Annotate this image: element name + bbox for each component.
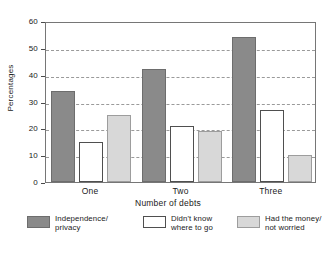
bar: [288, 155, 312, 182]
bar: [260, 110, 284, 182]
gridline: [46, 50, 315, 51]
light-gray-swatch: [237, 216, 260, 228]
bar-chart: Percentages 0102030405060 OneTwoThree Nu…: [0, 0, 336, 254]
x-axis-tick-label: Two: [146, 187, 216, 196]
chart-legend: Independence/ privacyDidn't know where t…: [0, 215, 336, 245]
x-axis-tick-label: Three: [236, 187, 306, 196]
legend-label: Didn't know where to go: [171, 215, 213, 232]
y-axis-tick-label: 30: [0, 99, 38, 107]
legend-item: Independence/ privacy: [27, 215, 108, 232]
dark-gray-swatch: [27, 216, 50, 228]
y-axis-tick: [41, 183, 45, 184]
y-axis-tick-label: 0: [0, 179, 38, 187]
y-axis-title: Percentages: [7, 48, 15, 128]
x-axis-title: Number of debts: [0, 199, 336, 208]
y-axis-tick-label: 20: [0, 125, 38, 133]
legend-item: Didn't know where to go: [143, 215, 213, 232]
bar: [170, 126, 194, 182]
bar: [232, 37, 256, 182]
gridline: [46, 77, 315, 78]
legend-label: Independence/ privacy: [55, 215, 108, 232]
bar: [198, 131, 222, 182]
gridline: [46, 104, 315, 105]
plot-area: [45, 22, 316, 183]
bar: [107, 115, 131, 182]
legend-label: Had the money/ not worried: [265, 215, 321, 232]
y-axis-tick-label: 60: [0, 18, 38, 26]
y-axis-tick-label: 10: [0, 152, 38, 160]
bar: [79, 142, 103, 182]
white-swatch: [143, 216, 166, 228]
bar: [51, 91, 75, 182]
y-axis-tick-label: 40: [0, 72, 38, 80]
legend-item: Had the money/ not worried: [237, 215, 321, 232]
bar: [142, 69, 166, 182]
x-axis-tick-label: One: [55, 187, 125, 196]
y-axis-tick-label: 50: [0, 45, 38, 53]
